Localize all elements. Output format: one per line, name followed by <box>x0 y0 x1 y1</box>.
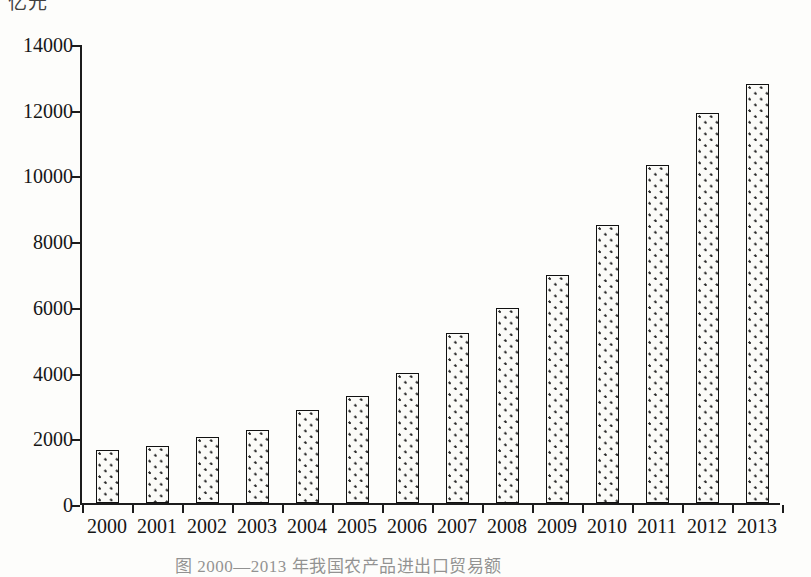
bar <box>496 308 519 503</box>
bar <box>396 373 419 503</box>
x-axis-tick-mark <box>282 505 284 513</box>
y-axis-tick-label: 14000 <box>23 34 73 57</box>
x-axis-tick-mark <box>532 505 534 513</box>
bar <box>296 410 319 503</box>
bar <box>96 450 119 503</box>
y-axis-line <box>80 45 82 505</box>
y-axis-tick-mark <box>72 176 80 178</box>
x-axis-line <box>80 503 780 505</box>
bar <box>246 430 269 503</box>
x-axis-tick-label: 2010 <box>587 515 627 538</box>
bar <box>696 113 719 503</box>
x-axis-tick-label: 2011 <box>637 515 676 538</box>
y-axis-tick-label: 8000 <box>33 231 73 254</box>
x-axis-tick-mark <box>782 505 784 513</box>
bar <box>546 275 569 503</box>
bar <box>646 165 669 503</box>
y-axis-tick-mark <box>72 111 80 113</box>
x-axis-tick-label: 2005 <box>337 515 377 538</box>
y-axis-tick-mark <box>72 505 80 507</box>
bar <box>446 333 469 503</box>
x-axis-tick-mark <box>332 505 334 513</box>
x-axis-tick-label: 2009 <box>537 515 577 538</box>
x-axis-tick-mark <box>382 505 384 513</box>
x-axis-tick-label: 2002 <box>187 515 227 538</box>
bar <box>596 225 619 503</box>
x-axis-tick-mark <box>632 505 634 513</box>
bar <box>346 396 369 503</box>
y-axis-unit-label: 亿元 <box>8 0 48 14</box>
y-axis-tick-mark <box>72 439 80 441</box>
x-axis-tick-mark <box>482 505 484 513</box>
x-axis-tick-label: 2008 <box>487 515 527 538</box>
x-axis-tick-label: 2012 <box>687 515 727 538</box>
x-axis-tick-mark <box>132 505 134 513</box>
y-axis-tick-label: 4000 <box>33 362 73 385</box>
bar-chart-plot-area: 02000400060008000100001200014000 2000200… <box>80 45 780 505</box>
y-axis-tick-label: 12000 <box>23 99 73 122</box>
x-axis-tick-label: 2007 <box>437 515 477 538</box>
x-axis-tick-label: 2006 <box>387 515 427 538</box>
y-axis-tick-mark <box>72 45 80 47</box>
y-axis-tick-mark <box>72 374 80 376</box>
x-axis-tick-mark <box>582 505 584 513</box>
x-axis-tick-mark <box>432 505 434 513</box>
y-axis-tick-mark <box>72 242 80 244</box>
x-axis-tick-label: 2004 <box>287 515 327 538</box>
y-axis-tick-label: 0 <box>63 494 73 517</box>
x-axis-tick-mark <box>232 505 234 513</box>
x-axis-tick-mark <box>82 505 84 513</box>
x-axis-tick-mark <box>682 505 684 513</box>
y-axis-tick-label: 6000 <box>33 296 73 319</box>
x-axis-tick-mark <box>182 505 184 513</box>
y-axis-tick-mark <box>72 308 80 310</box>
bar <box>746 84 769 503</box>
y-axis-tick-label: 2000 <box>33 428 73 451</box>
x-axis-tick-mark <box>732 505 734 513</box>
figure-caption: 图 2000—2013 年我国农产品进出口贸易额 <box>175 552 502 577</box>
x-axis-tick-label: 2013 <box>737 515 777 538</box>
y-axis-tick-label: 10000 <box>23 165 73 188</box>
bar <box>146 446 169 504</box>
x-axis-tick-label: 2003 <box>237 515 277 538</box>
x-axis-tick-label: 2001 <box>137 515 177 538</box>
bar <box>196 437 219 503</box>
x-axis-tick-label: 2000 <box>87 515 127 538</box>
